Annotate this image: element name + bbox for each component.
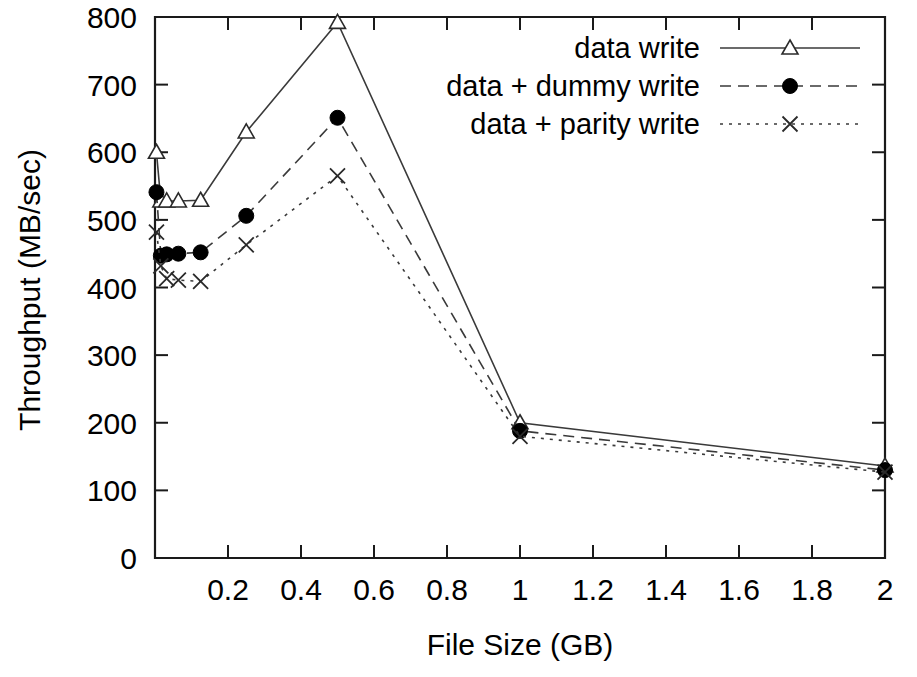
- x-tick-label: 1.4: [645, 573, 687, 606]
- x-tick-label: 0.6: [353, 573, 395, 606]
- x-tick-label: 1: [512, 573, 529, 606]
- x-tick-label: 0.2: [207, 573, 249, 606]
- y-tick-label: 700: [87, 69, 137, 102]
- marker-circle: [783, 79, 798, 94]
- chart-container: 01002003004005006007008000.20.40.60.811.…: [0, 0, 917, 677]
- y-tick-label: 0: [120, 542, 137, 575]
- y-tick-label: 600: [87, 136, 137, 169]
- y-tick-label: 100: [87, 474, 137, 507]
- x-tick-label: 0.4: [280, 573, 322, 606]
- chart-legend: data writedata + dummy writedata + parit…: [446, 32, 860, 140]
- marker-circle: [330, 110, 345, 125]
- marker-x: [193, 274, 208, 289]
- x-axis-title: File Size (GB): [427, 628, 614, 661]
- legend-label-3: data + parity write: [470, 108, 700, 140]
- marker-x: [330, 168, 345, 183]
- y-tick-label: 500: [87, 204, 137, 237]
- y-tick-label: 800: [87, 1, 137, 34]
- marker-x: [239, 237, 254, 252]
- y-tick-label: 300: [87, 339, 137, 372]
- throughput-line-chart: 01002003004005006007008000.20.40.60.811.…: [0, 0, 917, 677]
- legend-label-2: data + dummy write: [446, 70, 700, 102]
- marker-circle: [193, 245, 208, 260]
- marker-circle: [171, 246, 186, 261]
- x-tick-label: 2: [877, 573, 894, 606]
- marker-triangle: [170, 193, 186, 207]
- marker-circle: [149, 185, 164, 200]
- y-tick-label: 400: [87, 272, 137, 305]
- marker-circle: [239, 208, 254, 223]
- marker-triangle: [782, 40, 798, 54]
- x-tick-label: 1.2: [572, 573, 614, 606]
- legend-label-1: data write: [574, 32, 700, 64]
- x-tick-label: 1.8: [791, 573, 833, 606]
- x-tick-label: 1.6: [718, 573, 760, 606]
- x-tick-label: 0.8: [426, 573, 468, 606]
- y-tick-label: 200: [87, 407, 137, 440]
- marker-triangle: [193, 192, 209, 206]
- marker-circle: [878, 463, 893, 478]
- marker-x: [149, 225, 164, 240]
- y-axis-title: Throughput (MB/sec): [13, 149, 46, 431]
